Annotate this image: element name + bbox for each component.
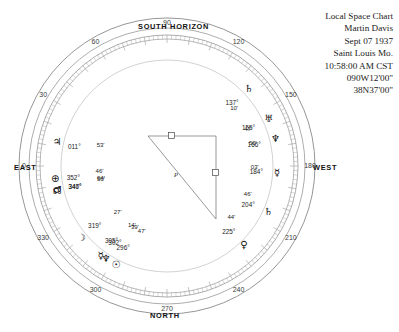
- degree-tick-marks: [36, 35, 298, 297]
- saturn-b-minute: 46': [244, 191, 252, 197]
- venus-glyph: ♀: [240, 240, 247, 250]
- chart-rings: [19, 18, 315, 314]
- mercury-degree: 305°: [105, 237, 118, 244]
- uranus-minute: 47': [244, 126, 252, 132]
- uranus-glyph: ♅: [264, 114, 273, 124]
- mercury-glyph: ☿: [97, 251, 103, 261]
- mars-degree: 347°: [68, 183, 81, 190]
- moon-degree: 319°: [88, 222, 101, 229]
- pluto-glyph: ⊕: [51, 174, 59, 184]
- tick-label-30: 30: [35, 91, 51, 98]
- saturn-minute: 10': [230, 105, 238, 111]
- jupiter-glyph: ♃: [52, 137, 61, 147]
- venus-minute: 44': [227, 214, 235, 220]
- mercury-b-degree: 184°: [250, 168, 263, 175]
- tick-label-270: 270: [159, 305, 175, 312]
- moon-minute: 27': [114, 209, 122, 215]
- pluto-minute: 46': [96, 168, 104, 174]
- header-line-time: 10:58:00 AM CST: [325, 60, 393, 72]
- header-line-date: Sept 07 1937: [325, 35, 393, 47]
- sun-minute: 47': [138, 228, 146, 234]
- tick-label-120: 120: [231, 38, 247, 45]
- pluto-degree: 352°: [67, 174, 80, 181]
- local-space-chart: Local Space Chart Martin Davis Sept 07 1…: [0, 0, 399, 332]
- jupiter-degree: 011°: [68, 143, 81, 150]
- aspect-lines: [148, 136, 216, 219]
- mercury-minute: 14': [128, 222, 136, 228]
- header-line-latitude: 38N37'00": [325, 84, 393, 96]
- mercury-b-glyph: ☿: [274, 168, 280, 178]
- saturn-b-degree: 204°: [242, 201, 255, 208]
- moon-glyph: ☽: [77, 233, 86, 243]
- saturn-b-glyph: ♄: [264, 207, 273, 217]
- mars-glyph: ♂: [53, 185, 62, 195]
- header-line-place: Saint Louis Mo.: [325, 47, 393, 59]
- header-line-longitude: 090W12'00": [325, 72, 393, 84]
- tick-label-150: 150: [283, 91, 299, 98]
- tick-label-300: 300: [88, 286, 104, 293]
- mars-minute: 04': [97, 175, 105, 181]
- tick-label-210: 210: [283, 234, 299, 241]
- tick-label-60: 60: [88, 38, 104, 45]
- header-line-name: Martin Davis: [325, 22, 393, 34]
- tick-label-90: 90: [159, 19, 175, 26]
- saturn-glyph: ♄: [244, 84, 253, 94]
- tick-label-330: 330: [35, 234, 51, 241]
- jupiter-minute: 53': [97, 142, 105, 148]
- aspect-point-label: P: [174, 171, 178, 178]
- sun-glyph: ☉: [112, 260, 121, 270]
- tick-label-240: 240: [231, 286, 247, 293]
- neptune-b-minute: 50': [249, 140, 257, 146]
- header-line-title: Local Space Chart: [325, 10, 393, 22]
- chart-header: Local Space Chart Martin Davis Sept 07 1…: [325, 10, 393, 97]
- mercury-b-minute: 03': [251, 164, 259, 170]
- tick-label-0: 0: [16, 162, 32, 169]
- venus-degree: 225°: [222, 228, 235, 235]
- neptune-b-glyph: ♆: [271, 134, 280, 144]
- cardinal-north: NORTH: [150, 311, 180, 320]
- tick-label-180: 180: [302, 162, 318, 169]
- aspect-node-markers: [169, 133, 219, 176]
